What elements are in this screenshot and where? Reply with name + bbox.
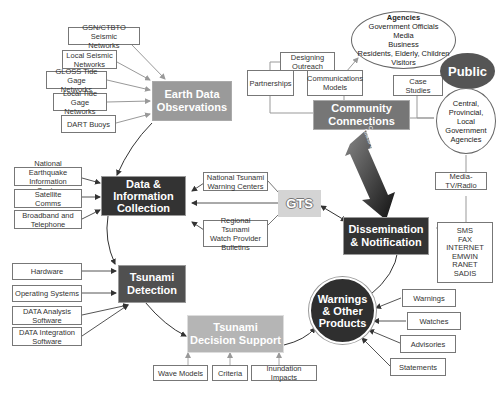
node-warnings-other-products: Warnings & Other Products bbox=[309, 277, 376, 344]
channels-box: SMS FAX INTERNET EMWIN RANET SADIS bbox=[437, 222, 493, 283]
node-gts: GTS bbox=[278, 190, 321, 217]
node-tsunami-detection: Tsunami Detection bbox=[118, 265, 186, 303]
agencies-line: Visitors bbox=[391, 58, 415, 67]
input-hardware: Hardware bbox=[12, 263, 82, 280]
input-satellite-comms: Satellite Comms bbox=[14, 189, 82, 208]
node-data-information-collection: Data & Information Collection bbox=[101, 176, 186, 216]
input-dart-buoys: DART Buoys bbox=[61, 115, 116, 133]
government-agencies-circle: Central, Provincial, Local Government Ag… bbox=[436, 88, 496, 154]
input-data-integration-software: DATA Integration Software bbox=[12, 327, 82, 346]
product-advisories: Advisories bbox=[400, 335, 456, 353]
input-operating-systems: Operating Systems bbox=[12, 285, 82, 302]
community-designing-outreach: Designing Outreach bbox=[280, 52, 335, 71]
node-public: Public bbox=[440, 53, 495, 89]
product-statements: Statements bbox=[390, 358, 446, 376]
input-broadband-telephone: Broadband and Telephone bbox=[14, 210, 82, 229]
input-criteria: Criteria bbox=[212, 365, 248, 381]
input-regional-tsunami-watch-bulletins: Regional Tsunami Watch Provider Bulletin… bbox=[203, 220, 268, 247]
input-national-tsunami-warning-centers: National Tsunami Warning Centers bbox=[203, 172, 268, 191]
input-inundation-impacts: Inundation Impacts bbox=[251, 365, 317, 381]
input-gloss-tide-gage: GLOSS Tide Gage Networks bbox=[46, 71, 107, 89]
agencies-ellipse: Agencies Government Officials Media Busi… bbox=[351, 11, 456, 69]
input-local-tide-gage: Local Tide Gage Networks bbox=[53, 93, 107, 111]
agencies-line: Media bbox=[393, 31, 413, 40]
agencies-line: Government Officials bbox=[369, 22, 439, 31]
community-communications-models: Communications Models bbox=[307, 70, 363, 96]
node-earth-data-observations: Earth Data Observations bbox=[152, 81, 232, 121]
agencies-line: Residents, Elderly, Children bbox=[358, 49, 450, 58]
input-data-analysis-software: DATA Analysis Software bbox=[12, 306, 82, 325]
product-watches: Watches bbox=[407, 312, 461, 330]
community-partnerships: Partnerships bbox=[247, 70, 294, 96]
input-gsn-ctbto-seismic: GSN/CTBTO Seismic Networks bbox=[68, 27, 140, 45]
node-dissemination-notification: Dissemination & Notification bbox=[343, 217, 429, 255]
media-tv-radio: Media- TV/Radio bbox=[435, 172, 487, 190]
agencies-line: Business bbox=[388, 40, 418, 49]
input-national-earthquake-center: National Earthquake Information Center bbox=[14, 167, 82, 186]
input-wave-models: Wave Models bbox=[153, 365, 208, 381]
community-case-studies: Case Studies bbox=[393, 75, 443, 96]
product-warnings: Warnings bbox=[402, 289, 456, 307]
agencies-title: Agencies bbox=[387, 13, 420, 22]
node-tsunami-decision-support: Tsunami Decision Support bbox=[187, 315, 284, 353]
